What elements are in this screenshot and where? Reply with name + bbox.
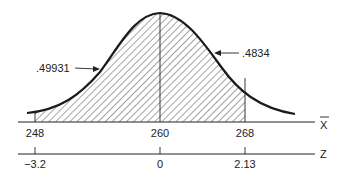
right-area-label: .4834	[242, 47, 270, 59]
left-arrowhead-icon	[93, 66, 100, 72]
x-tick-260: 260	[151, 127, 169, 139]
x-axis-label: X	[320, 119, 328, 131]
left-area-label: .49931	[36, 62, 70, 74]
z-tick-neg3-2: −3.2	[24, 158, 46, 170]
x-tick-248: 248	[26, 127, 44, 139]
x-tick-268: 268	[236, 127, 254, 139]
normal-curve-diagram: X 248 260 268 Z −3.2 0 2.13 .49931 .4834	[0, 0, 343, 181]
z-axis-label: Z	[320, 148, 327, 160]
right-arrowhead-icon	[214, 50, 221, 56]
z-tick-2-13: 2.13	[234, 158, 255, 170]
z-tick-0: 0	[157, 158, 163, 170]
left-area-arrow	[75, 68, 96, 69]
